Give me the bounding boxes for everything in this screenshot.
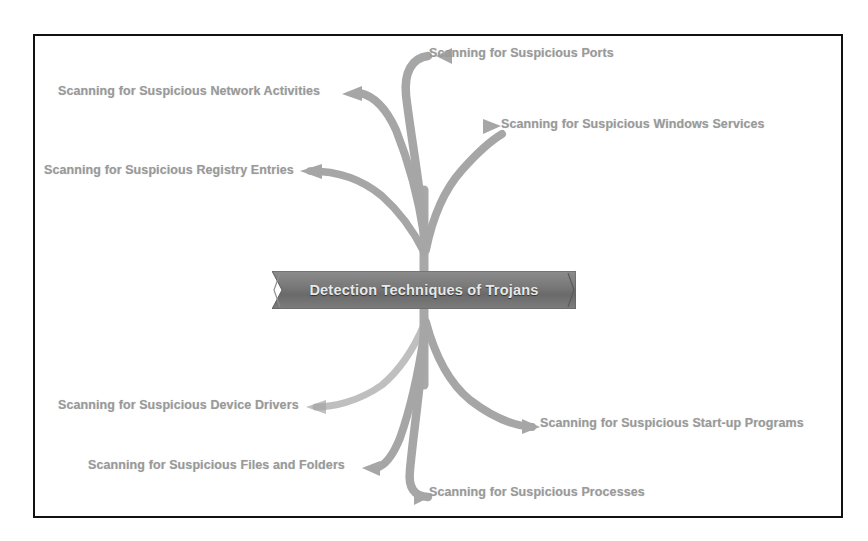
branch-files-and-folders-arrowhead <box>362 461 380 476</box>
leaf-label-device-drivers[interactable]: Scanning for Suspicious Device Drivers <box>58 398 299 412</box>
branch-registry-entries-arrowhead <box>300 164 322 179</box>
leaf-label-files-and-folders[interactable]: Scanning for Suspicious Files and Folder… <box>88 458 345 472</box>
branch-group-upper <box>300 48 502 272</box>
branch-group-lower <box>306 309 540 505</box>
branch-network-activities-arrowhead <box>342 86 362 101</box>
branch-device-drivers-arrowhead <box>306 400 326 414</box>
slide-page: Detection Techniques of Trojans Scanning… <box>0 0 868 541</box>
leaf-label-windows-services[interactable]: Scanning for Suspicious Windows Services <box>501 117 765 131</box>
branch-windows-services <box>426 134 502 250</box>
leaf-label-network-activities[interactable]: Scanning for Suspicious Network Activiti… <box>58 84 320 98</box>
branch-registry-entries <box>310 171 424 252</box>
leaf-label-start-up-programs[interactable]: Scanning for Suspicious Start-up Program… <box>540 416 804 430</box>
branch-start-up-programs-arrowhead <box>522 419 540 434</box>
leaf-label-ports[interactable]: Scanning for Suspicious Ports <box>429 46 614 60</box>
branch-start-up-programs <box>426 322 532 427</box>
leaf-label-processes[interactable]: Scanning for Suspicious Processes <box>429 485 645 499</box>
leaf-label-registry-entries[interactable]: Scanning for Suspicious Registry Entries <box>44 163 294 177</box>
center-node-ribbon-shape <box>272 271 576 309</box>
branch-device-drivers <box>316 325 424 407</box>
center-node[interactable]: Detection Techniques of Trojans <box>272 271 576 309</box>
